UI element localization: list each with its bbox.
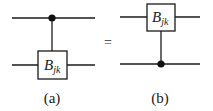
panel-a: Bjk (a): [12, 14, 95, 107]
panel-b: Bjk (b): [120, 4, 200, 107]
caption-b: (b): [151, 90, 169, 107]
circuit-diagram: Bjk (a) = Bjk (b): [0, 0, 213, 111]
control-dot: [48, 14, 55, 21]
equals-sign: =: [104, 35, 112, 50]
control-dot: [157, 60, 164, 67]
caption-a: (a): [44, 90, 61, 107]
